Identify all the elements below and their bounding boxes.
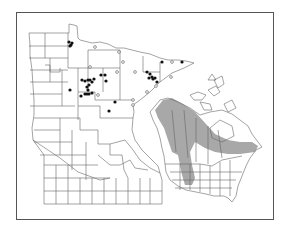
filled-occurrence-dot — [90, 91, 93, 94]
filled-occurrence-dot — [180, 60, 183, 63]
filled-occurrence-dot — [70, 41, 73, 44]
filled-occurrence-dot — [107, 109, 110, 112]
county-lines-north — [45, 65, 60, 72]
open-occurrence-dot — [132, 104, 135, 107]
arctic-islands — [190, 74, 236, 112]
filled-occurrence-dot — [79, 94, 82, 97]
filled-occurrence-dot — [83, 92, 86, 95]
open-occurrence-dot — [146, 91, 149, 94]
county-lines — [29, 33, 162, 204]
open-occurrence-dot — [170, 76, 173, 79]
filled-occurrence-dot — [103, 73, 106, 76]
filled-occurrence-dot — [86, 88, 89, 91]
filled-occurrence-dot — [68, 44, 71, 47]
open-occurrence-dot — [171, 61, 174, 64]
filled-occurrence-dot — [92, 77, 95, 80]
open-occurrence-dot — [155, 85, 158, 88]
filled-occurrence-dot — [155, 80, 158, 83]
north-america-map — [150, 74, 262, 202]
open-occurrence-dot — [89, 66, 92, 69]
filled-occurrence-dot — [104, 79, 107, 82]
canada-us-border — [165, 156, 242, 166]
filled-occurrence-dot — [68, 88, 71, 91]
filled-occurrence-dot — [145, 70, 148, 73]
open-occurrence-dot — [134, 71, 137, 74]
filled-occurrence-dot — [80, 78, 83, 81]
filled-occurrence-dot — [148, 72, 151, 75]
filled-occurrence-dot — [67, 40, 70, 43]
filled-occurrence-dot — [113, 100, 116, 103]
open-occurrence-dot — [122, 61, 125, 64]
filled-occurrence-dot — [90, 80, 93, 83]
filled-occurrence-dot — [153, 76, 156, 79]
open-occurrence-dot — [132, 99, 135, 102]
open-occurrence-dot — [97, 94, 100, 97]
filled-occurrence-dot — [83, 79, 86, 82]
open-occurrence-dot — [94, 46, 97, 49]
open-occurrence-dot — [116, 71, 119, 74]
filled-occurrence-dot — [87, 92, 90, 95]
map-svg — [0, 0, 287, 236]
filled-occurrence-dot — [160, 60, 163, 63]
open-occurrence-dot — [118, 51, 121, 54]
filled-occurrence-dot — [147, 76, 150, 79]
filled-occurrence-dot — [85, 85, 88, 88]
filled-occurrence-dot — [99, 73, 102, 76]
